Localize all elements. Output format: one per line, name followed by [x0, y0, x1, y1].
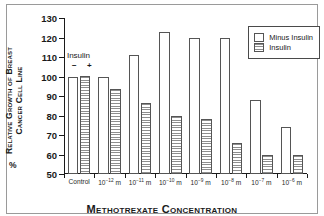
y-tick-label: 100	[41, 71, 57, 82]
bar	[232, 143, 243, 174]
y-tick	[59, 116, 64, 117]
x-tick	[186, 174, 187, 178]
bar	[281, 127, 292, 174]
bar	[159, 32, 170, 174]
y-axis-unit-percent: %	[9, 160, 17, 170]
insulin-minus-sign: −	[67, 61, 82, 70]
bar	[80, 76, 91, 174]
y-axis-title: Relative Growth of Breast Cancer Cell Li…	[6, 20, 24, 180]
y-tick-label: 110	[42, 52, 57, 63]
bar	[250, 100, 261, 174]
y-tick	[59, 38, 64, 39]
bar	[220, 38, 231, 175]
y-tick	[59, 77, 64, 78]
y-axis-title-line2: Cancer Cell Line	[15, 46, 25, 153]
legend: Minus Insulin Insulin	[248, 26, 320, 59]
y-tick	[59, 57, 64, 58]
x-tick-label: 10−7 m	[251, 178, 271, 186]
x-tick	[307, 174, 308, 178]
x-tick-label: 10−9 m	[191, 178, 211, 186]
y-tick	[59, 96, 64, 97]
x-tick-label: 10−12 m	[98, 178, 121, 186]
x-tick-label: 10−8 m	[221, 178, 241, 186]
bar	[293, 155, 304, 174]
y-tick	[59, 135, 64, 136]
legend-item-insulin: Insulin	[254, 43, 313, 52]
y-tick-label: 130	[41, 13, 57, 24]
bar	[189, 38, 200, 175]
x-tick-label: 10−11 m	[129, 178, 151, 186]
legend-item-minus-insulin: Minus Insulin	[254, 33, 313, 42]
y-tick-label: 80	[46, 110, 57, 121]
bar	[110, 89, 121, 174]
y-tick	[59, 155, 64, 156]
x-tick-label: 10−10 m	[159, 178, 182, 186]
y-tick-label: 70	[46, 130, 57, 141]
x-tick	[216, 174, 217, 178]
bar	[262, 155, 273, 174]
bar	[171, 116, 182, 175]
legend-swatch-minus-insulin-icon	[254, 33, 264, 42]
insulin-annotation: Insulin − +	[67, 51, 97, 70]
bar	[141, 103, 152, 174]
insulin-annotation-label: Insulin	[67, 51, 97, 60]
x-tick	[246, 174, 247, 178]
x-tick	[277, 174, 278, 178]
bar	[201, 119, 212, 174]
bar	[98, 77, 109, 175]
x-tick-label: Control	[69, 178, 90, 185]
x-tick	[94, 174, 95, 178]
bar	[68, 77, 79, 175]
y-tick-label: 60	[46, 149, 57, 160]
x-tick	[64, 174, 65, 178]
y-tick-label: 50	[46, 169, 57, 180]
x-tick	[155, 174, 156, 178]
chart-figure: Relative Growth of Breast Cancer Cell Li…	[0, 0, 324, 216]
legend-label-minus-insulin: Minus Insulin	[269, 33, 313, 42]
x-axis-title: Methotrexate Concentration	[0, 203, 324, 215]
bar	[129, 55, 140, 174]
x-tick-label: 10−6 m	[282, 178, 302, 186]
legend-label-insulin: Insulin	[269, 43, 291, 52]
y-tick	[59, 18, 64, 19]
insulin-plus-sign: +	[82, 61, 97, 70]
legend-swatch-insulin-icon	[254, 43, 264, 52]
y-axis-line	[64, 18, 65, 174]
y-tick-label: 90	[46, 91, 57, 102]
x-tick	[125, 174, 126, 178]
y-tick-label: 120	[41, 32, 57, 43]
